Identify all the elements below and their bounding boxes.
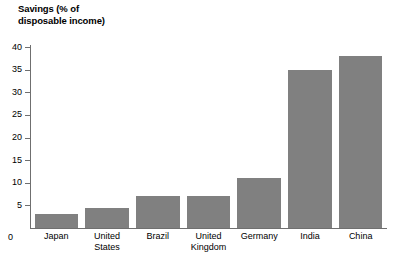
bar-chart: Savings (% of disposable income) 0510152… <box>0 0 396 260</box>
bar <box>339 56 383 228</box>
bar <box>237 178 281 228</box>
bar <box>187 196 231 228</box>
plot-area: 0510152025303540 JapanUnited StatesBrazi… <box>0 0 396 260</box>
x-axis-label: United Kingdom <box>183 231 234 252</box>
bars-layer <box>0 0 396 260</box>
x-axis-label: Germany <box>234 231 285 242</box>
bar <box>288 70 332 228</box>
x-axis-label: China <box>335 231 386 242</box>
x-axis-label: United States <box>82 231 133 252</box>
bar <box>85 208 129 228</box>
bar <box>136 196 180 228</box>
x-axis-label: India <box>285 231 336 242</box>
bar <box>35 214 79 228</box>
x-axis-label: Brazil <box>132 231 183 242</box>
x-axis-label: Japan <box>31 231 82 242</box>
